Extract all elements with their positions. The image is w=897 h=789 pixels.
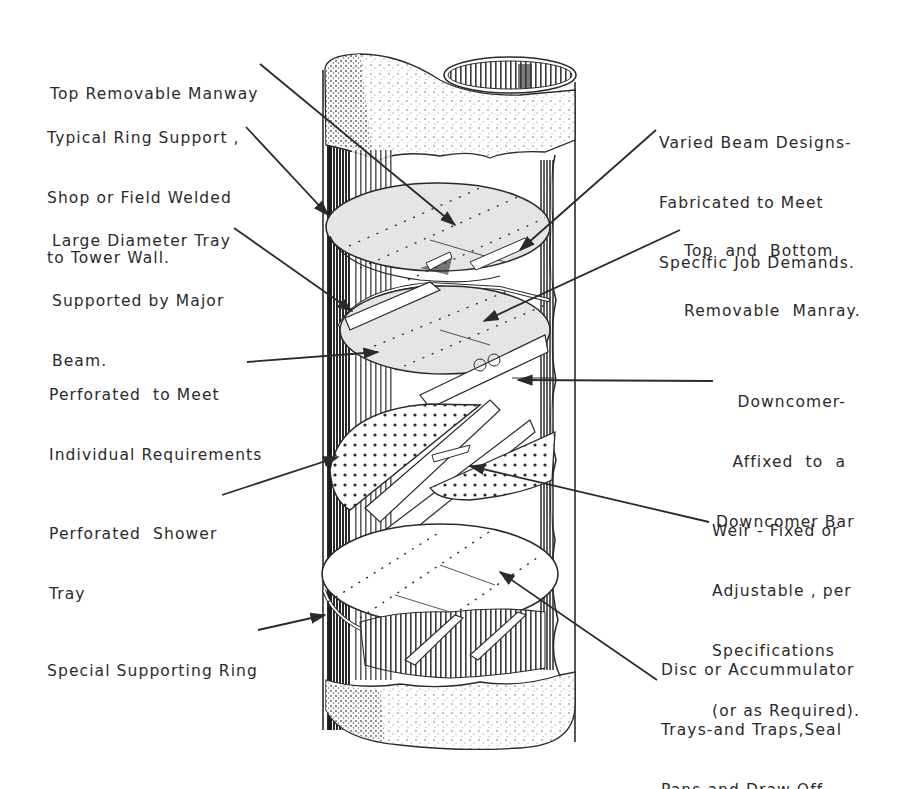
label-top-bottom-manray: Top and Bottom Removable Manray.	[684, 201, 861, 361]
tower-diagram: Top Removable Manway Typical Ring Suppor…	[0, 0, 897, 789]
label-perforated-shower-tray: Perforated Shower Tray	[49, 484, 217, 644]
leader-special-supporting-ring	[258, 615, 325, 630]
label-perforated-requirements: Perforated to Meet Individual Requiremen…	[49, 345, 262, 505]
label-disc-accumulator: Disc or Accummulator Trays-and Traps,Sea…	[661, 620, 855, 789]
leader-downcomer	[518, 380, 713, 381]
label-special-supporting-ring: Special Supporting Ring	[47, 621, 258, 721]
